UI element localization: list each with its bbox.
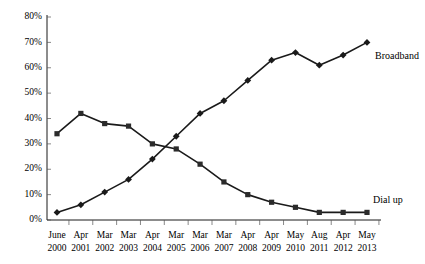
x-axis-tick-label-year: 2009 (262, 243, 281, 253)
data-point-diamond (364, 39, 371, 46)
x-axis-tick-label-month: Mar (97, 230, 114, 240)
x-axis-tick-label-year: 2006 (191, 243, 210, 253)
data-point-square (293, 205, 298, 210)
y-axis-tick-label: 0% (29, 214, 42, 224)
series-line (57, 42, 367, 212)
x-axis-tick-label-year: 2013 (358, 243, 377, 253)
data-point-square (174, 146, 179, 151)
x-axis-tick-label-year: 2001 (71, 243, 90, 253)
x-axis-tick-label-month: Apr (264, 230, 280, 240)
x-axis-tick-label-year: 2008 (238, 243, 257, 253)
y-axis-tick-label: 30% (25, 138, 43, 148)
x-axis-tick-label-year: 2010 (286, 243, 305, 253)
y-axis-tick-label: 70% (25, 37, 43, 47)
x-axis-tick-label-year: 2012 (334, 243, 353, 253)
x-axis-tick-label-month: May (358, 230, 376, 240)
data-point-square (317, 210, 322, 215)
data-point-square (221, 179, 226, 184)
x-axis-tick-label-month: Aug (311, 230, 328, 240)
y-axis-tick-label: 40% (25, 113, 43, 123)
x-axis-tick-label-year: 2004 (143, 243, 162, 253)
x-axis-tick-label-year: 2002 (95, 243, 114, 253)
x-axis-tick-label-month: Mar (216, 230, 233, 240)
data-point-square (126, 124, 131, 129)
series-label-dial-up: Dial up (373, 194, 403, 205)
data-point-diamond (54, 209, 61, 216)
x-axis-tick-label-month: Mar (168, 230, 185, 240)
x-axis-tick-label-year: 2003 (119, 243, 138, 253)
data-point-diamond (340, 52, 347, 59)
x-axis-tick-label-month: Apr (73, 230, 89, 240)
data-point-diamond (292, 49, 299, 56)
data-point-diamond (77, 201, 84, 208)
data-point-square (364, 210, 369, 215)
data-point-square (78, 111, 83, 116)
data-point-square (54, 131, 59, 136)
x-axis-tick-label-year: 2005 (167, 243, 186, 253)
series-line (57, 113, 367, 212)
data-point-square (341, 210, 346, 215)
data-point-diamond (101, 189, 108, 196)
x-axis-tick-label-year: 2011 (310, 243, 329, 253)
data-point-square (197, 162, 202, 167)
y-axis-tick-label: 20% (25, 163, 43, 173)
x-axis-tick-label-month: Apr (240, 230, 256, 240)
y-axis-tick-label: 80% (25, 11, 43, 21)
y-axis-tick-label: 50% (25, 87, 43, 97)
x-axis-tick-label-month: Apr (145, 230, 161, 240)
series-broadband (54, 39, 371, 216)
x-axis-tick-label-month: June (48, 230, 65, 240)
x-axis-tick-label-month: May (287, 230, 305, 240)
data-point-square (269, 200, 274, 205)
series-label-broadband: Broadband (375, 50, 419, 61)
x-axis-tick-label-month: Mar (192, 230, 209, 240)
data-point-square (245, 192, 250, 197)
line-chart: 0%10%20%30%40%50%60%70%80%June2000Apr200… (0, 0, 425, 264)
x-axis-tick-label-month: Apr (336, 230, 352, 240)
chart-canvas: 0%10%20%30%40%50%60%70%80%June2000Apr200… (0, 0, 425, 264)
data-point-square (102, 121, 107, 126)
data-point-square (150, 141, 155, 146)
x-axis-tick-label-year: 2000 (48, 243, 67, 253)
x-axis-tick-label-month: Mar (121, 230, 138, 240)
y-axis-tick-label: 10% (25, 189, 43, 199)
series-dial-up (54, 111, 369, 215)
x-axis-tick-label-year: 2007 (214, 243, 233, 253)
data-point-diamond (316, 62, 323, 69)
y-axis-tick-label: 60% (25, 62, 43, 72)
